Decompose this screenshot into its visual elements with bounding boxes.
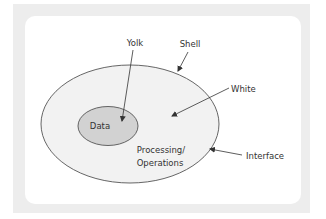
interface-arrow xyxy=(210,149,242,155)
shell-arrow xyxy=(178,52,188,71)
data-label: Data xyxy=(90,121,110,131)
processing-label-line2: Operations xyxy=(137,158,184,168)
white-label: White xyxy=(231,84,256,94)
yolk-label: Yolk xyxy=(126,38,144,48)
processing-label-line1: Processing/ xyxy=(137,145,185,155)
shell-label: Shell xyxy=(180,39,201,49)
interface-label: Interface xyxy=(246,151,284,161)
egg-diagram: Yolk Shell White Data Processing/ Operat… xyxy=(0,0,326,219)
